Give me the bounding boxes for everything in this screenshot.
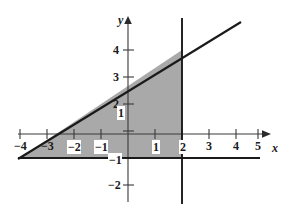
y-tick-label-neg2: −2 (108, 179, 120, 191)
x-axis-name: x (272, 142, 278, 154)
y-tick-label-4: 4 (113, 44, 119, 56)
x-tick-label-neg1: −1 (94, 140, 108, 154)
x-tick-label-neg4: −4 (14, 140, 26, 152)
y-axis-name: y (118, 14, 123, 26)
x-tick-label-neg3: −3 (41, 140, 53, 152)
x-tick-label-2: 2 (179, 140, 187, 154)
y-tick-label-1: 1 (117, 106, 125, 120)
coordinate-plane-svg (0, 0, 291, 215)
x-tick-label-3: 3 (206, 140, 212, 152)
y-tick-label-neg1: −1 (108, 153, 122, 167)
y-tick-label-3: 3 (113, 71, 119, 83)
x-tick-label-1: 1 (152, 140, 160, 154)
x-tick-label-5: 5 (255, 140, 261, 152)
x-tick-label-4: 4 (233, 140, 239, 152)
graph-figure: −4 −3 −2 −1 1 2 3 4 5 4 3 2 1 −1 −2 x y (0, 0, 291, 215)
x-tick-label-neg2: −2 (67, 140, 81, 154)
